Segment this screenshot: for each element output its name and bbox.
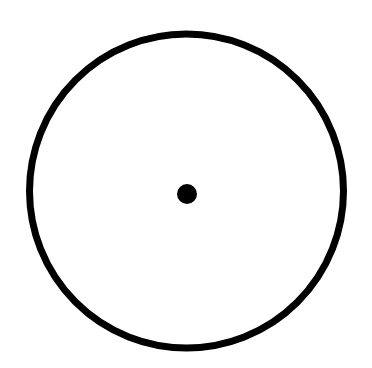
diagram-canvas (0, 0, 372, 368)
circle-diagram (0, 0, 372, 368)
center-point (177, 184, 197, 204)
